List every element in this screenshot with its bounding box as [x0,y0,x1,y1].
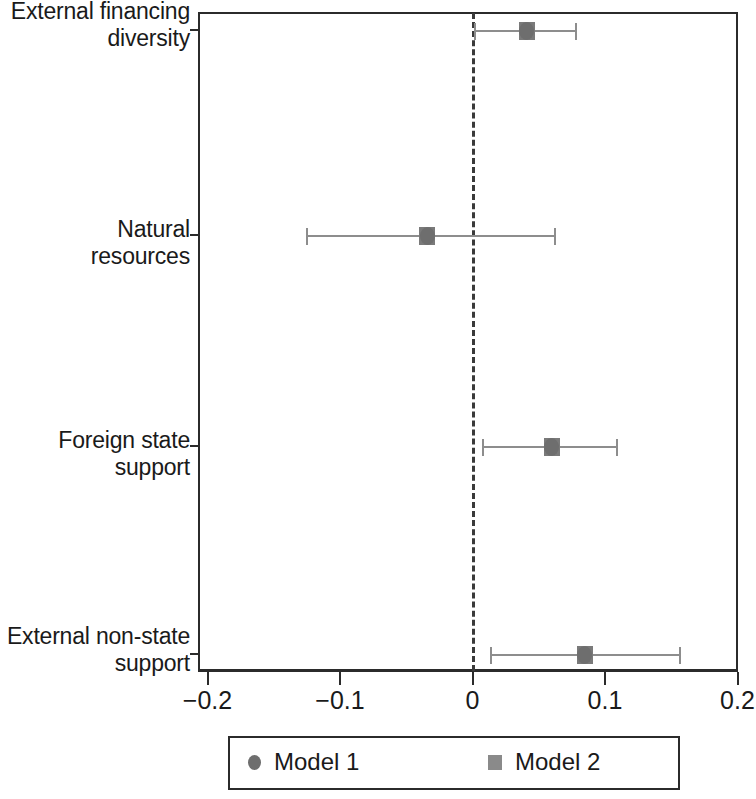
estimate-marker-model-1 [577,646,592,664]
x-axis-tick [737,672,739,685]
coefficient-plot-figure: External financing diversity Natural res… [0,0,756,799]
y-axis-label-natural-resources: Natural resources [0,216,190,270]
zero-reference-line [472,13,475,671]
ci-cap-lower [306,228,308,245]
square-marker-icon [488,755,502,770]
estimate-marker-model-1 [544,438,559,456]
data-row [0,235,756,237]
legend: Model 1 Model 2 [228,736,680,790]
plot-frame [198,12,738,672]
x-axis-tick [339,672,341,685]
data-row [0,654,756,656]
data-row [0,446,756,448]
ci-cap-upper [575,23,577,40]
x-axis-tick [604,672,606,685]
legend-item-model-1: Model 1 [248,748,359,776]
data-row [0,30,756,32]
ci-cap-upper [554,228,556,245]
circle-marker-icon [248,755,261,770]
x-axis-tick-label: −0.1 [280,686,400,715]
x-axis-tick-label: −0.2 [148,686,268,715]
x-axis-tick-label: 0 [413,686,533,715]
ci-cap-upper [616,439,618,456]
legend-label-model-1: Model 1 [274,748,359,776]
y-axis-label-foreign-state-support: Foreign state support [0,427,190,481]
x-axis-tick-label: 0.1 [545,686,665,715]
legend-label-model-2: Model 2 [515,748,600,776]
ci-cap-lower [490,647,492,664]
x-axis-tick [207,672,209,685]
y-axis-label-external-non-state-support: External non-state support [0,623,190,677]
estimate-marker-model-1 [519,22,534,40]
x-axis-tick-label: 0.2 [678,686,756,715]
legend-item-model-2: Model 2 [488,748,600,776]
ci-cap-upper [679,647,681,664]
x-axis-tick [472,672,474,685]
ci-cap-lower [474,23,476,40]
y-axis-label-external-financing-diversity: External financing diversity [0,0,190,52]
ci-cap-lower [482,439,484,456]
